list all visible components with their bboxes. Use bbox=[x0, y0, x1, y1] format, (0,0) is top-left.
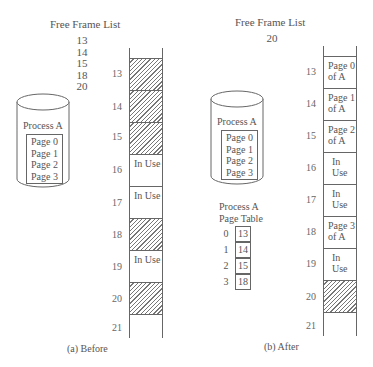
page-table: 0 13 1 14 2 15 3 18 bbox=[221, 226, 257, 290]
free-frame-list-title: Free Frame List bbox=[235, 16, 305, 28]
frame-number: 13 bbox=[104, 68, 122, 79]
frame-number: 18 bbox=[298, 226, 316, 237]
frame-number: 19 bbox=[298, 258, 316, 269]
page-item: Page 3 bbox=[31, 171, 58, 183]
free-frame-list-title: Free Frame List bbox=[50, 18, 120, 30]
frame-13: Page 0 of A bbox=[324, 56, 356, 88]
free-frame-item: 20 bbox=[72, 81, 92, 93]
frame-19: In Use bbox=[324, 248, 356, 280]
free-frame-list: 20 bbox=[262, 33, 282, 45]
caption-after: (b) After bbox=[264, 341, 299, 352]
process-label: Process A bbox=[23, 120, 63, 131]
frame-18 bbox=[130, 218, 162, 250]
free-frame-item: 20 bbox=[262, 33, 282, 45]
frame-number: 15 bbox=[104, 131, 122, 142]
frame-number: 21 bbox=[298, 320, 316, 331]
frame-16: In Use bbox=[130, 154, 162, 186]
frame-21 bbox=[130, 314, 162, 338]
caption-before: (a) Before bbox=[67, 343, 108, 354]
page-item: Page 0 bbox=[226, 132, 253, 144]
frame-number: 17 bbox=[104, 197, 122, 208]
frame-number: 15 bbox=[298, 130, 316, 141]
process-pages: Page 0 Page 1 Page 2 Page 3 bbox=[26, 134, 63, 184]
frame-number: 20 bbox=[298, 291, 316, 302]
frame-15: Page 2 of A bbox=[324, 120, 356, 152]
frame-20 bbox=[130, 282, 162, 314]
frame-17: In Use bbox=[130, 186, 162, 218]
page-item: Page 2 bbox=[31, 159, 58, 171]
frame-16: In Use bbox=[324, 152, 356, 184]
frame-number: 20 bbox=[104, 293, 122, 304]
frame-number: 14 bbox=[104, 101, 122, 112]
memory-frames-after: Page 0 of A Page 1 of A Page 2 of A In U… bbox=[323, 46, 357, 336]
frame-20 bbox=[324, 280, 356, 312]
frame-number: 16 bbox=[104, 164, 122, 175]
frame-18: Page 3 of A bbox=[324, 216, 356, 248]
frame-14 bbox=[130, 90, 162, 122]
free-frame-item: 13 bbox=[72, 35, 92, 47]
frame-number: 18 bbox=[104, 229, 122, 240]
frame-13 bbox=[130, 58, 162, 90]
page-item: Page 3 bbox=[226, 167, 253, 179]
process-label: Process A bbox=[217, 116, 257, 127]
frame-number: 21 bbox=[104, 322, 122, 333]
page-item: Page 1 bbox=[31, 148, 58, 160]
free-frame-list: 13 14 15 18 20 bbox=[72, 35, 92, 93]
page-table-title: Process A Page Table bbox=[219, 201, 263, 225]
free-frame-item: 15 bbox=[72, 58, 92, 70]
frame-15 bbox=[130, 122, 162, 154]
frame-14: Page 1 of A bbox=[324, 88, 356, 120]
frame-17: In Use bbox=[324, 184, 356, 216]
frame-number: 17 bbox=[298, 194, 316, 205]
frame-number: 19 bbox=[104, 261, 122, 272]
frame-21 bbox=[324, 312, 356, 336]
frame-number: 16 bbox=[298, 162, 316, 173]
memory-frames-before: In Use In Use In Use bbox=[129, 48, 163, 338]
page-item: Page 2 bbox=[226, 155, 253, 167]
process-pages: Page 0 Page 1 Page 2 Page 3 bbox=[221, 130, 258, 180]
page-item: Page 0 bbox=[31, 136, 58, 148]
frame-number: 14 bbox=[298, 98, 316, 109]
page-item: Page 1 bbox=[226, 144, 253, 156]
frame-19: In Use bbox=[130, 250, 162, 282]
frame-number: 13 bbox=[298, 66, 316, 77]
